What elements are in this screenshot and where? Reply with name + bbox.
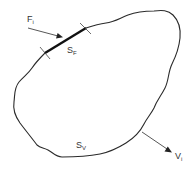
force-label-sub: i (33, 19, 34, 25)
force-surface-label-sub: F (73, 50, 77, 56)
velocity-surface-label-sub: V (82, 145, 86, 151)
body-boundary-outline (14, 10, 180, 157)
force-label: Fi (27, 15, 34, 25)
body-diagram (0, 0, 196, 170)
force-surface-label: SF (67, 46, 77, 56)
velocity-label-sub: i (181, 156, 182, 162)
force-surface-end-tick (80, 23, 91, 34)
velocity-label: Vi (175, 152, 182, 162)
force-arrow-icon (28, 28, 63, 39)
velocity-surface-label: SV (76, 141, 86, 151)
force-surface-segment (45, 28, 86, 53)
velocity-arrow-icon (142, 132, 172, 153)
